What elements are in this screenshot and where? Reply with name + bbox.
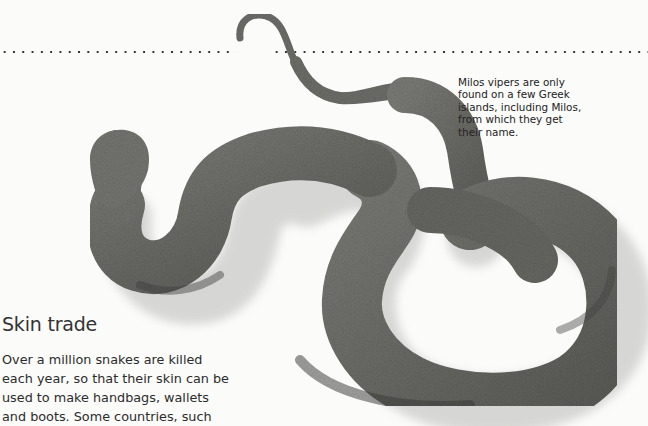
- book-page: Milos vipers are only found on a few Gre…: [0, 0, 648, 426]
- body-line: each year, so that their skin can be: [2, 369, 272, 388]
- section-body: Over a million snakes are killed each ye…: [2, 350, 272, 426]
- caption-line: Milos vipers are only: [458, 76, 648, 88]
- body-line: used to make handbags, wallets: [2, 388, 272, 407]
- photo-caption: Milos vipers are only found on a few Gre…: [458, 76, 648, 138]
- caption-line: from which they get: [458, 113, 648, 125]
- caption-line: found on a few Greek: [458, 88, 648, 100]
- body-line: and boots. Some countries, such: [2, 407, 272, 426]
- caption-line: their name.: [458, 126, 648, 138]
- body-line: Over a million snakes are killed: [2, 350, 272, 369]
- section-heading: Skin trade: [2, 313, 97, 335]
- caption-line: islands, including Milos,: [458, 101, 648, 113]
